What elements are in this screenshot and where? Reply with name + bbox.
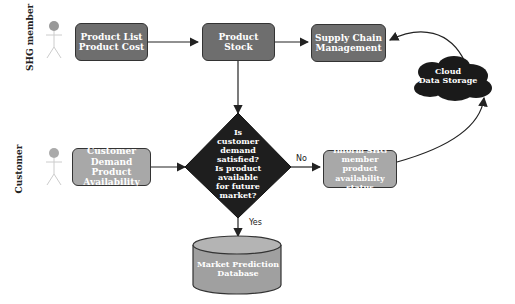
lane-label-customer: Customer xyxy=(14,144,24,194)
arrow-inform-to-cloud xyxy=(397,98,484,162)
decision-line: market? xyxy=(220,190,257,200)
cloud-line2: Data Storage xyxy=(419,75,478,85)
customer-demand-box: Customer DemandProduct Availability xyxy=(72,148,151,186)
edge-label-no: No xyxy=(296,154,307,163)
product-stock-label: Product Stock xyxy=(203,32,274,53)
database-label: Market PredictionDatabase xyxy=(195,260,281,278)
inform-shg-box: Inform SHGmember productavailability sta… xyxy=(323,150,397,188)
inform-line2: member product xyxy=(342,154,379,173)
product-list-line2: Product Cost xyxy=(79,42,145,52)
decision-text: Is customer demand satisfied? Is product… xyxy=(195,128,281,200)
decision-line: Is product available xyxy=(215,163,261,182)
supply-chain-box: Supply ChainManagement xyxy=(311,24,386,62)
edge-label-yes: Yes xyxy=(249,218,262,227)
customer-actor-icon xyxy=(46,148,62,185)
product-stock-box: Product Stock xyxy=(202,23,275,61)
shg-member-actor-icon xyxy=(46,21,62,58)
cloud-label: CloudData Storage xyxy=(416,67,480,85)
supply-chain-line1: Supply Chain xyxy=(315,33,382,43)
customer-demand-line1: Customer Demand xyxy=(87,146,136,166)
product-list-box: Product ListProduct Cost xyxy=(75,23,148,61)
inform-line3: availability status xyxy=(335,173,384,192)
lane-label-shg-member: SHG member xyxy=(25,11,35,71)
database-line2: Database xyxy=(217,268,258,278)
supply-chain-line2: Management xyxy=(315,43,381,53)
customer-demand-line2: Product Availability xyxy=(83,167,139,187)
product-list-line1: Product List xyxy=(80,32,142,42)
